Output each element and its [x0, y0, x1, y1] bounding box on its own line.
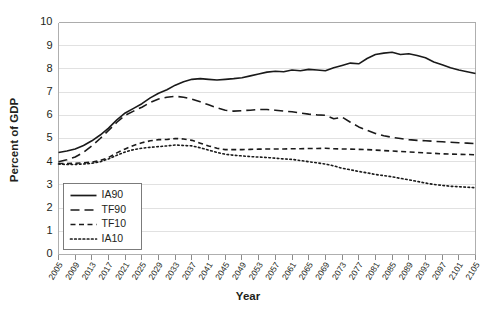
x-tick-label: 2029 [146, 260, 165, 282]
x-tick-label: 2037 [180, 260, 199, 282]
y-tick-label: 10 [40, 15, 52, 27]
y-tick-label: 7 [46, 85, 52, 97]
x-tick-label: 2069 [313, 260, 332, 282]
x-tick-label: 2053 [246, 260, 265, 282]
x-tick-label: 2049 [230, 260, 249, 282]
x-tick-label: 2077 [346, 260, 365, 282]
legend-label-tf90[interactable]: TF90 [102, 203, 127, 215]
series-line-ia90 [59, 52, 476, 152]
x-axis-title: Year [236, 290, 261, 302]
line-chart: 012345678910 200520092013201720212025202… [0, 0, 495, 316]
x-tick-label: 2097 [430, 260, 449, 282]
chart-container: 012345678910 200520092013201720212025202… [0, 0, 495, 316]
x-tick-label: 2021 [113, 260, 132, 282]
x-tick-label: 2093 [413, 260, 432, 282]
x-tick-label: 2105 [463, 260, 482, 282]
x-tick-label: 2089 [396, 260, 415, 282]
y-tick-label: 9 [46, 39, 52, 51]
y-tick-label: 6 [46, 108, 52, 120]
y-tick-label: 0 [46, 247, 52, 259]
y-tick-label: 5 [46, 131, 52, 143]
legend-label-tf10[interactable]: TF10 [102, 217, 127, 229]
x-tick-label: 2009 [63, 260, 82, 282]
x-tick-label: 2057 [263, 260, 282, 282]
data-series [59, 52, 476, 187]
y-axis-title: Percent of GDP [8, 97, 20, 182]
y-tick-label: 1 [46, 224, 52, 236]
y-tick-label: 4 [46, 155, 52, 167]
x-tick-label: 2081 [363, 260, 382, 282]
series-line-tf10 [59, 139, 476, 164]
x-tick-label: 2101 [447, 260, 466, 282]
x-axis-tickmarks [59, 255, 476, 260]
x-tick-label: 2033 [163, 260, 182, 282]
x-tick-label: 2005 [46, 260, 65, 282]
x-tick-label: 2041 [196, 260, 215, 282]
y-axis-tick-labels: 012345678910 [40, 15, 52, 259]
legend-label-ia90[interactable]: IA90 [102, 188, 124, 200]
x-tick-label: 2085 [380, 260, 399, 282]
x-tick-label: 2073 [330, 260, 349, 282]
x-tick-label: 2065 [296, 260, 315, 282]
x-tick-label: 2025 [130, 260, 149, 282]
y-tick-label: 8 [46, 62, 52, 74]
x-tick-label: 2017 [96, 260, 115, 282]
x-tick-label: 2045 [213, 260, 232, 282]
x-tick-label: 2013 [80, 260, 99, 282]
chart-legend[interactable]: IA90TF90TF10IA10 [64, 184, 142, 250]
x-tick-label: 2061 [280, 260, 299, 282]
legend-label-ia10[interactable]: IA10 [102, 232, 124, 244]
x-axis-tick-labels: 2005200920132017202120252029203320372041… [46, 260, 482, 282]
y-tick-label: 3 [46, 178, 52, 190]
y-tick-label: 2 [46, 201, 52, 213]
